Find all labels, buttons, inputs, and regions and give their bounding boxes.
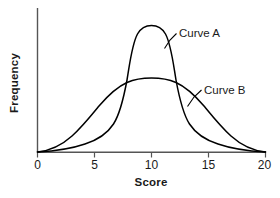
frequency-distribution-chart: 0 5 10 15 20 Score Frequency Curve A Cur… — [0, 0, 280, 198]
x-tick-label-15: 15 — [202, 158, 216, 172]
x-tick-label-10: 10 — [145, 158, 159, 172]
x-tick-label-0: 0 — [34, 158, 41, 172]
x-tick-label-5: 5 — [91, 158, 98, 172]
y-axis-title: Frequency — [8, 53, 20, 113]
curve-b-leader-line — [188, 90, 202, 107]
x-tick-label-20: 20 — [258, 158, 272, 172]
chart-canvas: 0 5 10 15 20 Score Frequency Curve A Cur… — [0, 0, 280, 198]
x-axis-ticks — [38, 153, 266, 158]
curve-a-label: Curve A — [179, 27, 220, 39]
x-axis-title: Score — [135, 176, 168, 188]
curve-b-label: Curve B — [204, 84, 246, 96]
